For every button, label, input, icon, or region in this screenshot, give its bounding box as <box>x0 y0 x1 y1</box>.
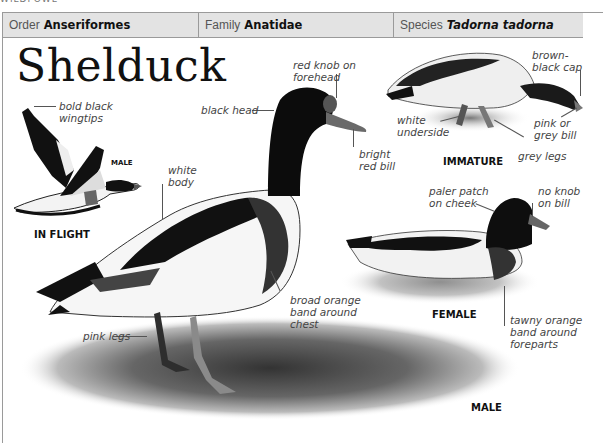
caption-flight-male: MALE <box>111 159 133 167</box>
annotation-line: forehead <box>293 71 356 83</box>
annotation-line: pink legs <box>83 330 130 342</box>
leader-line <box>34 106 56 107</box>
annotation-line: band around <box>510 326 582 338</box>
annotation-line: on cheek <box>429 197 489 209</box>
annotation-line: grey legs <box>518 150 567 162</box>
leader-line <box>162 184 163 220</box>
annotation-line: black head <box>201 104 258 116</box>
annotation-fem-cheek: paler patch on cheek <box>429 185 489 209</box>
annotation-line: on bill <box>538 197 580 209</box>
annotation-line: underside <box>397 126 449 138</box>
annotation-line: black cap <box>532 61 582 73</box>
annotation-line: foreparts <box>510 338 582 350</box>
annotation-line: white <box>397 114 449 126</box>
annotation-black-head: black head <box>201 104 258 116</box>
caption-in-flight: IN FLIGHT <box>34 229 90 240</box>
caption-immature: IMMATURE <box>443 156 503 167</box>
annotation-broad-band: broad orange band around chest <box>290 294 361 330</box>
annotation-line: broad orange <box>290 294 361 306</box>
annotation-line: grey bill <box>534 129 576 141</box>
annotation-line: wingtips <box>59 112 113 124</box>
annotation-line: band around <box>290 306 361 318</box>
annotation-line: paler patch <box>429 185 489 197</box>
annotation-bright-red-bill: bright red bill <box>359 148 395 172</box>
annotation-line: pink or <box>534 117 576 129</box>
annotation-line: red knob on <box>293 59 356 71</box>
leader-line <box>504 286 505 326</box>
female-illustration <box>340 198 550 304</box>
annotation-pink-legs: pink legs <box>83 330 130 342</box>
annotation-imm-underside: white underside <box>397 114 449 138</box>
annotation-line: red bill <box>359 160 395 172</box>
annotation-red-knob: red knob on forehead <box>293 59 356 83</box>
annotation-line: white <box>168 164 197 176</box>
annotation-fem-knob: no knob on bill <box>538 185 580 209</box>
annotation-imm-legs: grey legs <box>518 150 567 162</box>
caption-female: FEMALE <box>432 309 477 320</box>
annotation-line: chest <box>290 318 361 330</box>
annotation-line: brown- <box>532 49 582 61</box>
annotation-line: bold black <box>59 100 113 112</box>
annotation-fem-band: tawny orange band around foreparts <box>510 314 582 350</box>
annotation-flight-wingtips: bold black wingtips <box>59 100 113 124</box>
annotation-line: no knob <box>538 185 580 197</box>
leader-line <box>353 129 354 147</box>
caption-male: MALE <box>471 402 502 413</box>
annotation-line: tawny orange <box>510 314 582 326</box>
annotation-line: bright <box>359 148 395 160</box>
leader-line <box>580 70 581 96</box>
annotation-imm-cap: brown- black cap <box>532 49 582 73</box>
annotation-imm-bill: pink or grey bill <box>534 117 576 141</box>
leader-line <box>532 203 533 217</box>
annotation-white-body: white body <box>168 164 197 188</box>
annotation-line: body <box>168 176 197 188</box>
